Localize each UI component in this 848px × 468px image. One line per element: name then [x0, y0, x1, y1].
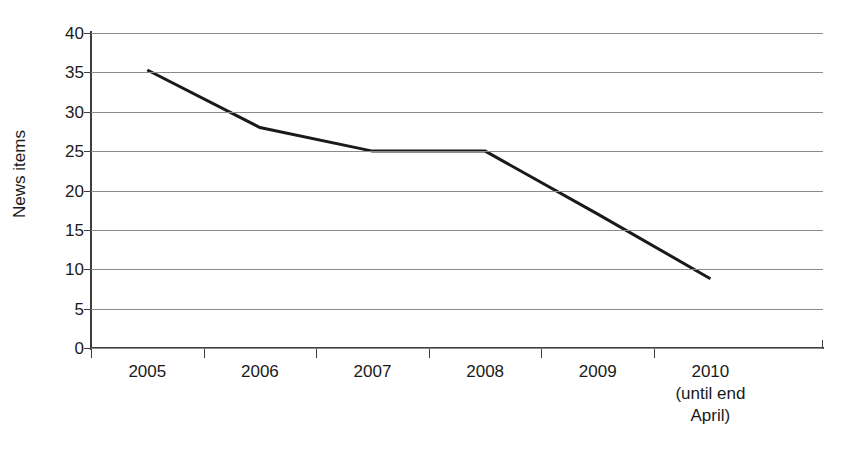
y-tick-label-40: 40	[44, 25, 84, 42]
y-tick-label-10: 10	[44, 261, 84, 278]
gridline-y-20	[91, 191, 823, 192]
y-tick-mark-35	[84, 72, 91, 73]
y-tick-mark-25	[84, 151, 91, 152]
y-tick-mark-40	[84, 33, 91, 34]
y-tick-label-30: 30	[44, 104, 84, 121]
x-category-label-2010: 2010(until endApril)	[650, 361, 770, 427]
gridline-y-40	[91, 33, 823, 34]
x-category-sublabel-line1: (until end	[650, 383, 770, 405]
gridline-y-25	[91, 151, 823, 152]
y-tick-mark-0	[84, 348, 91, 349]
y-tick-label-20: 20	[44, 183, 84, 200]
x-category-year: 2008	[466, 362, 504, 381]
x-tick-mark-2006	[204, 349, 205, 358]
y-tick-mark-20	[84, 191, 91, 192]
y-tick-label-5: 5	[44, 301, 84, 318]
x-tick-mark-2010	[654, 349, 655, 358]
y-tick-mark-30	[84, 112, 91, 113]
x-tick-mark-2009	[541, 349, 542, 358]
y-tick-label-25: 25	[44, 143, 84, 160]
x-category-sublabel-line2: April)	[650, 405, 770, 427]
news-items-polyline	[147, 70, 710, 279]
x-category-year: 2005	[128, 362, 166, 381]
x-category-label-2009: 2009	[538, 361, 658, 383]
line-chart-figure: News items 0510152025303540 200520062007…	[0, 0, 848, 468]
gridline-y-0	[91, 348, 823, 349]
gridline-y-10	[91, 269, 823, 270]
y-tick-mark-5	[84, 309, 91, 310]
x-category-label-2005: 2005	[87, 361, 207, 383]
gridline-y-30	[91, 112, 823, 113]
gridline-y-15	[91, 230, 823, 231]
y-tick-mark-10	[84, 269, 91, 270]
x-category-label-2008: 2008	[425, 361, 545, 383]
x-tick-mark-2008	[429, 349, 430, 358]
gridline-y-5	[91, 309, 823, 310]
y-tick-label-35: 35	[44, 64, 84, 81]
x-tick-mark-2007	[316, 349, 317, 358]
x-category-year: 2009	[579, 362, 617, 381]
y-tick-label-15: 15	[44, 222, 84, 239]
y-axis-title-text: News items	[10, 130, 30, 218]
y-axis-title: News items	[0, 0, 40, 348]
y-axis-tick-labels: 0510152025303540	[40, 0, 84, 468]
x-category-label-2007: 2007	[313, 361, 433, 383]
y-tick-label-0: 0	[44, 340, 84, 357]
gridline-y-35	[91, 72, 823, 73]
x-tick-mark-2005	[91, 349, 92, 358]
plot-area	[91, 33, 823, 348]
x-category-year: 2010	[691, 362, 729, 381]
y-tick-mark-15	[84, 230, 91, 231]
x-category-year: 2006	[241, 362, 279, 381]
x-category-label-2006: 2006	[200, 361, 320, 383]
x-category-year: 2007	[354, 362, 392, 381]
